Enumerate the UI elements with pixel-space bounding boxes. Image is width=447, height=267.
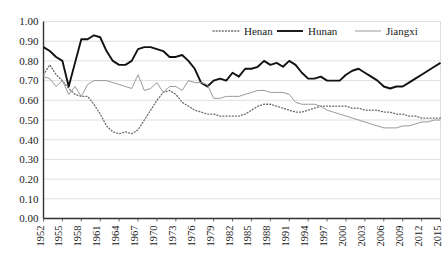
chart-legend: HenanHunanJiangxi xyxy=(213,25,418,37)
legend-label-jiangxi: Jiangxi xyxy=(386,25,418,37)
y-axis-tick-label: 0.10 xyxy=(19,193,39,205)
x-axis-tick-label: 2009 xyxy=(394,226,405,247)
x-axis-tick-label: 1961 xyxy=(91,226,102,247)
x-axis-tick-label: 2015 xyxy=(432,226,443,247)
x-axis-tick-label: 2006 xyxy=(375,226,386,247)
x-axis-tick-label: 1973 xyxy=(167,226,178,247)
chart-svg: 1.000.900.800.700.600.500.400.300.200.10… xyxy=(0,0,447,267)
x-axis-tick-label: 1964 xyxy=(110,225,121,247)
x-axis-tick-label: 1985 xyxy=(242,226,253,247)
y-axis-tick-label: 0.00 xyxy=(19,212,39,224)
x-axis-tick-label: 1970 xyxy=(148,226,159,247)
y-axis-tick-label: 0.20 xyxy=(19,173,39,185)
x-axis-tick-label: 1979 xyxy=(205,226,216,247)
x-axis-tick-label: 1982 xyxy=(224,226,235,247)
y-axis-tick-label: 0.60 xyxy=(19,94,39,106)
x-axis-tick-label: 1958 xyxy=(72,226,83,247)
x-axis-tick-label: 2003 xyxy=(356,226,367,247)
y-axis-tick-label: 0.90 xyxy=(19,35,39,47)
x-axis-tick-label: 1988 xyxy=(261,226,272,247)
x-axis-tick-label: 1997 xyxy=(318,226,329,247)
y-axis-tick-label: 0.50 xyxy=(19,114,39,126)
y-axis-tick-label: 0.30 xyxy=(19,153,39,165)
legend-label-hunan: Hunan xyxy=(308,25,338,37)
x-axis-tick-labels: 1952195519581961196419671970197319761979… xyxy=(35,219,443,247)
x-axis-tick-label: 1955 xyxy=(53,226,64,247)
x-axis-tick-label: 1967 xyxy=(129,226,140,247)
y-axis-tick-label: 0.40 xyxy=(19,134,39,146)
x-axis-tick-label: 1994 xyxy=(299,225,310,247)
y-axis-tick-label: 0.80 xyxy=(19,55,39,67)
y-axis-tick-label: 0.70 xyxy=(19,74,39,86)
x-axis-tick-label: 1952 xyxy=(35,226,46,247)
x-axis-tick-label: 1991 xyxy=(280,226,291,247)
y-axis-tick-labels: 1.000.900.800.700.600.500.400.300.200.10… xyxy=(19,15,39,224)
x-axis-tick-label: 2012 xyxy=(413,226,424,247)
line-chart: 1.000.900.800.700.600.500.400.300.200.10… xyxy=(0,0,447,267)
legend-label-henan: Henan xyxy=(244,25,273,37)
x-axis-tick-label: 2000 xyxy=(337,226,348,247)
y-axis-tick-label: 1.00 xyxy=(19,15,39,27)
x-axis-tick-label: 1976 xyxy=(186,226,197,247)
